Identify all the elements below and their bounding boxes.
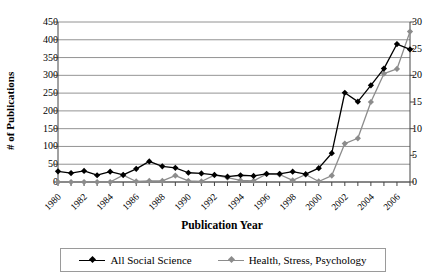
x-axis-title: Publication Year — [0, 219, 444, 231]
series-marker — [159, 178, 165, 184]
legend-label: Health, Stress, Psychology — [249, 255, 367, 266]
series-marker — [81, 168, 87, 174]
series-marker — [407, 46, 413, 52]
series-marker — [198, 178, 204, 184]
series-marker — [316, 178, 322, 184]
series-marker — [94, 172, 100, 178]
series-marker — [68, 170, 74, 176]
series-marker — [55, 179, 61, 185]
legend-item-health-stress-psychology: Health, Stress, Psychology — [218, 255, 367, 266]
series-marker — [355, 135, 361, 141]
series-marker — [407, 28, 413, 34]
series-marker — [198, 170, 204, 176]
legend-marker-icon — [79, 256, 105, 265]
chart-legend: All Social Science Health, Stress, Psych… — [60, 248, 386, 272]
series-marker — [224, 174, 230, 180]
series-marker — [172, 165, 178, 171]
series-line — [58, 44, 410, 177]
series-marker — [394, 41, 400, 47]
series-marker — [133, 178, 139, 184]
series-marker — [81, 179, 87, 185]
series-marker — [263, 171, 269, 177]
legend-item-all-social-science: All Social Science — [79, 255, 191, 266]
series-marker — [55, 168, 61, 174]
legend-label: All Social Science — [110, 255, 191, 266]
series-marker — [237, 172, 243, 178]
series-marker — [146, 158, 152, 164]
plot-area — [0, 0, 444, 279]
series-marker — [185, 178, 191, 184]
series-marker — [107, 169, 113, 175]
series-marker — [342, 140, 348, 146]
series-marker — [185, 170, 191, 176]
series-marker — [68, 179, 74, 185]
series-marker — [290, 169, 296, 175]
series-line — [58, 32, 410, 182]
series-marker — [107, 179, 113, 185]
series-marker — [250, 173, 256, 179]
series-marker — [211, 172, 217, 178]
series-marker — [290, 177, 296, 183]
series-marker — [394, 66, 400, 72]
series-marker — [368, 99, 374, 105]
series-marker — [329, 172, 335, 178]
legend-marker-icon — [218, 256, 244, 265]
series-marker — [120, 172, 126, 178]
series-marker — [146, 178, 152, 184]
publications-line-chart: # of Publications 0501001502002503003504… — [0, 0, 444, 279]
series-marker — [94, 179, 100, 185]
series-marker — [172, 172, 178, 178]
series-marker — [133, 166, 139, 172]
